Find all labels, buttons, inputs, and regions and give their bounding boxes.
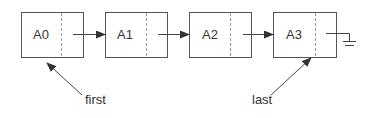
first-pointer: first <box>47 63 106 107</box>
last-pointer: last <box>252 58 311 107</box>
node-label: A3 <box>286 27 302 42</box>
last-pointer-label: last <box>252 92 273 107</box>
node-a2: A2 <box>190 13 252 58</box>
first-pointer-label: first <box>85 92 106 107</box>
first-pointer-arrow <box>47 63 82 95</box>
last-pointer-arrow <box>271 58 311 95</box>
node-label: A1 <box>117 27 133 42</box>
linked-list-diagram: A0 A1 A2 A3 first last <box>0 0 386 118</box>
node-label: A0 <box>33 27 49 42</box>
node-a3: A3 <box>274 13 337 58</box>
node-label: A2 <box>202 27 218 42</box>
